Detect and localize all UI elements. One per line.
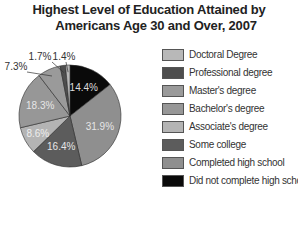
- legend-swatch: [162, 139, 184, 151]
- legend-swatch: [162, 121, 184, 133]
- pie-slice-label: 31.9%: [86, 121, 114, 132]
- legend-label: Did not complete high school: [189, 174, 298, 188]
- legend-label: Some college: [189, 138, 246, 152]
- pie-slice-label: 1.4%: [53, 51, 76, 62]
- legend-label: Professional degree: [189, 66, 272, 80]
- legend-swatch: [162, 103, 184, 115]
- pie-slice-label: 8.6%: [26, 128, 49, 139]
- pie-slice-label: 16.4%: [47, 141, 75, 152]
- legend-swatch: [162, 157, 184, 169]
- legend-label: Doctoral Degree: [189, 48, 257, 62]
- legend-label: Completed high school: [189, 156, 284, 170]
- pie-slice-label: 7.3%: [5, 61, 28, 72]
- legend-swatch: [162, 67, 184, 79]
- legend-swatch: [162, 85, 184, 97]
- pie-slice-label: 14.4%: [70, 82, 98, 93]
- pie-slice-label: 18.3%: [26, 100, 54, 111]
- legend-label: Associate's degree: [189, 120, 268, 134]
- legend-swatch: [162, 175, 184, 187]
- legend-label: Master's degree: [189, 84, 256, 98]
- pie-slice-label: 1.7%: [29, 51, 52, 62]
- legend-label: Bachelor's degree: [189, 102, 264, 116]
- legend-swatch: [162, 49, 184, 61]
